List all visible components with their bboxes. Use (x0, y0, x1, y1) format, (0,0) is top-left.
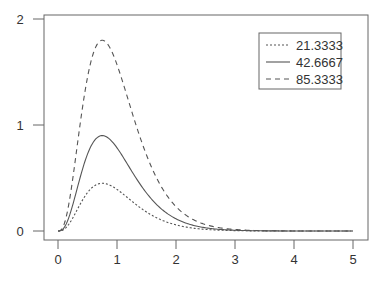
chart: 012 012345 21.333342.666785.3333 (0, 0, 383, 281)
x-tick-label: 3 (231, 252, 238, 267)
legend-label: 85.3333 (296, 72, 343, 87)
legend-label: 21.3333 (296, 38, 343, 53)
y-tick-label: 0 (16, 224, 23, 239)
x-tick-label: 1 (113, 252, 120, 267)
x-tick-label: 2 (172, 252, 179, 267)
x-tick-label: 0 (54, 252, 61, 267)
legend: 21.333342.666785.3333 (259, 33, 343, 89)
x-tick-label: 4 (290, 252, 297, 267)
legend-label: 42.6667 (296, 55, 343, 70)
x-axis: 012345 (54, 240, 356, 267)
y-tick-label: 1 (16, 118, 23, 133)
y-axis: 012 (16, 12, 44, 239)
y-tick-label: 2 (16, 12, 23, 27)
series-line-21-3333 (58, 183, 353, 231)
x-tick-label: 5 (349, 252, 356, 267)
